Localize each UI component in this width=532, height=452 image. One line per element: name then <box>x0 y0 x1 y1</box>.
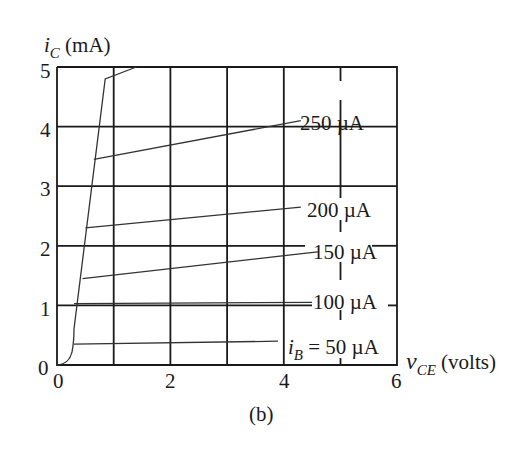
x-tick-4: 4 <box>279 369 290 393</box>
curve-ib-100ua <box>74 302 312 303</box>
x-axis-symbol: v <box>406 348 417 374</box>
x-axis-subscript: CE <box>417 362 436 378</box>
label-250ua: 250 µA <box>300 111 365 135</box>
y-tick-5: 5 <box>40 59 51 83</box>
curve-ib-200ua <box>85 207 300 228</box>
label-200ua: 200 µA <box>307 198 372 222</box>
x-tick-6: 6 <box>391 369 402 393</box>
y-tick-2: 2 <box>40 237 51 261</box>
x-axis-unit: (volts) <box>436 350 496 374</box>
x-axis-title: vCE (volts) <box>406 348 496 378</box>
x-tick-2: 2 <box>165 369 176 393</box>
y-axis-unit: (mA) <box>60 33 111 57</box>
transistor-characteristics-chart: 250 µA 200 µA 150 µA 100 µA iB = 50 µA 5… <box>0 0 532 452</box>
y-tick-3: 3 <box>40 177 51 201</box>
label-50ua-sub: B <box>294 347 303 363</box>
curve-labels: 250 µA 200 µA 150 µA 100 µA iB = 50 µA <box>288 111 380 363</box>
label-50ua: iB = 50 µA <box>288 335 380 363</box>
label-150ua: 150 µA <box>313 240 378 264</box>
y-tick-0: 0 <box>38 356 49 380</box>
y-tick-1: 1 <box>40 297 51 321</box>
figure-caption: (b) <box>249 402 274 426</box>
y-tick-labels: 5 4 3 2 1 0 <box>38 59 51 380</box>
curve-ib-150ua <box>83 252 318 279</box>
label-100ua: 100 µA <box>313 290 378 314</box>
x-tick-labels: 0 2 4 6 <box>53 369 402 393</box>
curve-ib-50ua <box>74 341 278 344</box>
label-50ua-value: = 50 µA <box>303 335 380 359</box>
y-axis-title: iC (mA) <box>44 33 111 61</box>
curves <box>57 67 318 365</box>
x-tick-0: 0 <box>53 369 64 393</box>
saturation-knee-curve <box>57 67 136 365</box>
y-tick-4: 4 <box>40 118 51 142</box>
